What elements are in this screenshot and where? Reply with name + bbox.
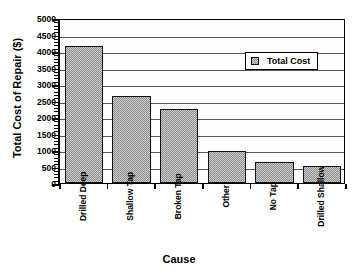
- x-axis-title: Cause: [0, 253, 358, 265]
- bar: [208, 151, 246, 183]
- x-axis-tick-label-text: Drilled Shallow: [317, 166, 326, 227]
- y-axis-major-tick: [52, 118, 59, 120]
- y-axis-major-tick: [52, 102, 59, 104]
- y-axis-major-tick: [52, 69, 59, 71]
- y-axis-tick-labels: 0500100015002000250030003500400045005000: [26, 15, 56, 183]
- bars-layer: [60, 20, 344, 183]
- bar: [112, 96, 150, 183]
- x-axis-tick: [107, 184, 109, 189]
- y-axis-major-tick: [52, 52, 59, 54]
- x-axis-tick-label-text: No Tap: [269, 182, 278, 210]
- x-axis-tick: [202, 184, 204, 189]
- bar: [65, 46, 103, 183]
- y-axis-major-tick: [52, 36, 59, 38]
- plot-area: [59, 19, 345, 184]
- y-axis-title: Total Cost of Repair ($): [8, 18, 26, 178]
- x-axis-tick: [154, 184, 156, 189]
- y-axis-major-tick: [52, 19, 59, 21]
- x-axis-tick: [250, 184, 252, 189]
- y-axis-major-tick: [52, 85, 59, 87]
- x-axis-tick-label-text: Broken Tap: [174, 173, 183, 219]
- legend-entry-label: Total Cost: [267, 56, 310, 66]
- y-axis-major-tick: [52, 184, 59, 186]
- bar-chart: Total Cost of Repair ($) 050010001500200…: [0, 0, 358, 278]
- x-axis-tick-label-text: Drilled Deep: [79, 171, 88, 221]
- y-axis-major-tick: [52, 151, 59, 153]
- total-cost-swatch-icon: [251, 57, 259, 65]
- y-axis-major-tick: [52, 168, 59, 170]
- chart-legend: Total Cost: [245, 52, 318, 70]
- x-axis-tick-label-text: Shallow Tap: [126, 172, 135, 221]
- x-axis-tick: [297, 184, 299, 189]
- bar: [255, 162, 293, 183]
- y-axis-major-tick: [52, 135, 59, 137]
- bar: [160, 109, 198, 183]
- x-axis-title-text: Cause: [162, 253, 195, 265]
- x-axis-tick: [345, 184, 347, 189]
- x-axis-tick-label-text: Other: [222, 185, 231, 208]
- y-axis-title-text: Total Cost of Repair ($): [11, 38, 23, 158]
- x-axis-tick: [59, 184, 61, 189]
